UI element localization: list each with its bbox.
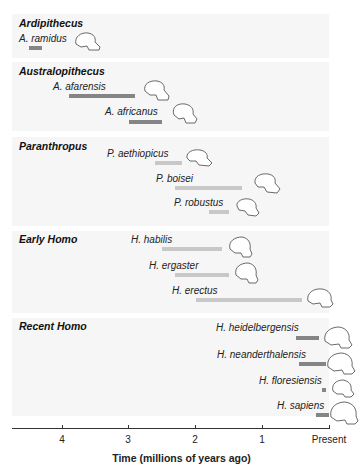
x-tick [128,425,129,429]
range-bar [196,298,303,302]
x-tick [195,425,196,429]
skull-icon [73,30,103,52]
species-label: H. heidelbergensis [216,322,299,333]
species-label: H. neanderthalensis [217,349,306,360]
species-label: A. afarensis [53,81,106,92]
skull-icon [170,101,200,125]
species-label: A. ramidus [19,33,67,44]
range-bar [162,247,222,251]
x-tick-label: 2 [192,434,198,445]
species-label: H. habilis [131,234,172,245]
species-label: A. africanus [105,106,158,117]
range-bar [29,46,42,50]
x-tick-label: Present [312,434,346,445]
range-bar [69,94,136,98]
x-tick-label: 1 [259,434,265,445]
group-title-recent-homo: Recent Homo [19,320,87,332]
skull-icon [227,235,255,259]
skull-icon [252,171,282,195]
species-label: H. sapiens [277,400,324,411]
skull-icon [322,324,354,350]
skull-icon [305,285,335,309]
skull-icon [328,400,360,426]
range-bar [322,388,325,392]
species-label: P. boisei [156,173,193,184]
x-tick [262,425,263,429]
skull-icon [142,78,172,102]
x-tick [329,425,330,429]
range-bar [129,120,162,124]
species-label: H. ergaster [149,260,198,271]
group-title-early-homo: Early Homo [19,233,77,245]
skull-icon [233,261,261,285]
range-bar [296,336,319,340]
skull-icon [234,196,262,218]
species-label: P. aethiopicus [107,148,169,159]
range-bar [209,210,229,214]
group-title-paranthropus: Paranthropus [19,140,87,152]
x-axis-line [12,428,330,429]
range-bar [299,362,326,366]
x-tick-label: 3 [125,434,131,445]
skull-icon [325,350,357,376]
skull-icon [330,377,356,399]
species-label: H. erectus [172,285,218,296]
x-tick [62,425,63,429]
group-title-ardipithecus: Ardipithecus [19,17,83,29]
species-label: H. floresiensis [259,375,322,386]
group-title-australopithecus: Australopithecus [19,65,105,77]
x-axis-title: Time (millions of years ago) [0,452,363,464]
range-bar [155,161,182,165]
skull-icon [184,146,214,168]
range-bar [175,273,228,277]
range-bar [175,186,242,190]
x-tick-label: 4 [59,434,65,445]
range-bar [316,413,329,417]
species-label: P. robustus [174,197,223,208]
